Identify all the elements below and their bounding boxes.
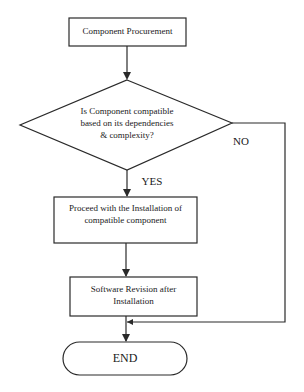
node-compatibility-decision-label: Is Component compatible based on its dep…: [60, 105, 194, 141]
arrowhead-icon: [123, 72, 131, 80]
node-software-revision-label: Software Revision after Installation: [70, 283, 197, 307]
no-branch-label: NO: [230, 135, 252, 147]
decision-line-2: based on its dependencies: [60, 117, 194, 129]
install-line-1: Proceed with the Installation of: [54, 202, 197, 214]
node-end-label: END: [63, 351, 187, 366]
arrowhead-icon: [122, 334, 130, 342]
decision-line-1: Is Component compatible: [60, 105, 194, 117]
arrowhead-icon: [127, 319, 133, 325]
install-line-2: compatible component: [54, 214, 197, 226]
decision-line-3: & complexity?: [60, 129, 194, 141]
node-component-procurement-label: Component Procurement: [69, 25, 186, 37]
arrowhead-icon: [123, 189, 131, 197]
flowchart-canvas: [0, 0, 304, 392]
node-install-component-label: Proceed with the Installation of compati…: [54, 202, 197, 226]
revision-line-2: Installation: [70, 295, 197, 307]
revision-line-1: Software Revision after: [70, 283, 197, 295]
yes-branch-label: YES: [138, 175, 166, 187]
arrowhead-icon: [122, 269, 130, 277]
